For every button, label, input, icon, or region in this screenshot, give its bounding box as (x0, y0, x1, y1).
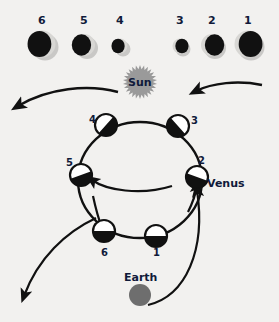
phase-disk-dark-part (205, 34, 224, 55)
phase-disk-dark-part (111, 39, 124, 54)
phase-disk-dark-part (175, 39, 188, 54)
earth-label: Earth (124, 272, 157, 283)
phase-number-label: 3 (176, 15, 184, 26)
orbit-position-number-label: 6 (101, 248, 108, 258)
orbit-position-number-label: 2 (198, 156, 205, 166)
phase-number-label: 2 (208, 15, 216, 26)
orbit-position-group (70, 114, 208, 247)
orbit-position-number-label: 3 (191, 116, 198, 126)
venus-orbit-path (78, 122, 202, 238)
phase-disk-dark-part (28, 31, 52, 57)
orbit-position-number-label: 1 (153, 248, 160, 258)
line-of-sight-left (24, 218, 96, 296)
venus-night-side (93, 231, 115, 242)
phase-disk-group (28, 31, 263, 58)
sunlight-ray-top-left (18, 88, 118, 106)
phase-number-label: 5 (80, 15, 88, 26)
venus-label: Venus (207, 178, 245, 189)
phase-number-label: 4 (116, 15, 124, 26)
orbit-direction-arrow-left (92, 180, 172, 191)
sunlight-ray-top-right (196, 83, 262, 91)
phase-number-label: 6 (38, 15, 46, 26)
orbit-position-number-label: 5 (66, 158, 73, 168)
venus-night-side (145, 236, 167, 247)
earth-disk (129, 284, 151, 306)
venus-phases-diagram: Sun Earth Venus 654321123456 (0, 0, 279, 322)
venus-orbit-position (70, 164, 95, 189)
phase-number-label: 1 (244, 15, 252, 26)
venus-orbit-position (93, 220, 115, 242)
orbit-position-number-label: 4 (89, 115, 96, 125)
venus-orbit-position (162, 115, 189, 142)
venus-orbit-position (145, 225, 167, 247)
venus-orbit-position (183, 166, 208, 191)
phase-disk-dark-part (239, 31, 263, 57)
phase-disk-dark-part (72, 34, 91, 55)
sun-label: Sun (128, 77, 152, 88)
